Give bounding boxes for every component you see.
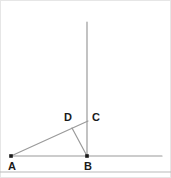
point-label-a: A: [8, 161, 16, 172]
point-marker-a: [9, 154, 13, 158]
geometry-figure: A B C D: [0, 0, 171, 178]
geometry-canvas: [0, 0, 171, 178]
figure-background: [0, 0, 171, 178]
point-label-b: B: [84, 161, 92, 172]
point-label-c: C: [92, 112, 100, 123]
point-label-d: D: [64, 112, 72, 123]
point-marker-b: [85, 154, 89, 158]
